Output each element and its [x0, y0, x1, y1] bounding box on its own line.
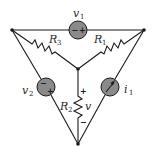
r2-minus-sign: − [80, 118, 87, 127]
v1-plus-sign: + [79, 26, 86, 35]
v1-label-sub: 1 [80, 13, 84, 21]
resistor-r2: + − R 2 v [59, 69, 92, 144]
v2-label: v [22, 84, 29, 97]
resistor-r3-zigzag [12, 30, 78, 69]
i1-label: i [124, 83, 128, 96]
wire-right-upper [115, 30, 144, 79]
v2-label-sub: 2 [29, 90, 33, 98]
top-branch-v1: − + v 1 [12, 7, 144, 39]
resistor-r3: R 3 [12, 30, 78, 69]
v1-label: v [73, 7, 80, 20]
circuit-diagram: − + v 1 − + v 2 i 1 R 3 R 1 + − [0, 0, 154, 154]
r1-label: R [93, 33, 102, 46]
r2-label: R [59, 100, 68, 113]
wire-left-upper [12, 30, 41, 79]
r1-label-sub: 1 [102, 39, 106, 47]
r2-label-sub: 2 [68, 106, 72, 114]
r3-label-sub: 3 [57, 39, 61, 47]
v1-minus-sign: − [72, 26, 79, 35]
v2-minus-sign: − [40, 79, 47, 88]
right-branch-i1: i 1 [78, 30, 144, 144]
node-top-right [142, 28, 146, 32]
r3-label: R [48, 33, 57, 46]
r2-plus-sign: + [80, 87, 87, 96]
v2-plus-sign: + [47, 87, 54, 96]
node-bottom [76, 142, 80, 146]
resistor-r1-zigzag [78, 30, 144, 69]
v-label: v [85, 100, 92, 113]
node-center [76, 67, 80, 71]
node-top-left [10, 28, 14, 32]
left-branch-v2: − + v 2 [12, 30, 78, 144]
i1-label-sub: 1 [129, 89, 133, 97]
resistor-r1: R 1 [78, 30, 144, 69]
resistor-r2-zigzag [74, 69, 82, 144]
